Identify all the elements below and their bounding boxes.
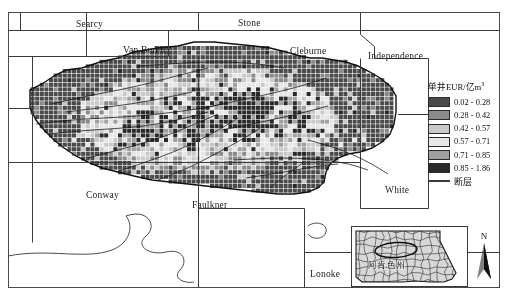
legend-row-0: 0.02 - 0.28 bbox=[428, 96, 502, 109]
fault-label: 断层 bbox=[454, 175, 472, 188]
legend-label-1: 0.28 - 0.42 bbox=[454, 111, 490, 120]
legend-swatch-1 bbox=[428, 110, 450, 120]
legend-class-list: 0.02 - 0.280.28 - 0.420.42 - 0.570.57 - … bbox=[428, 96, 502, 175]
county-label-cleburne: Cleburne bbox=[290, 46, 326, 56]
county-label-van-buren: Van Buren bbox=[123, 45, 165, 55]
map-legend: 单井EUR/亿m3 0.02 - 0.280.28 - 0.420.42 - 0… bbox=[428, 80, 502, 188]
map-figure: SearcyStoneVan BurenCleburneIndependence… bbox=[0, 0, 508, 297]
inset-county-mesh bbox=[352, 227, 467, 286]
north-arrow-label: N bbox=[471, 231, 497, 241]
legend-swatch-4 bbox=[428, 150, 450, 160]
legend-swatch-0 bbox=[428, 97, 450, 107]
county-label-lonoke: Lonoke bbox=[310, 269, 340, 279]
legend-label-3: 0.57 - 0.71 bbox=[454, 137, 490, 146]
county-label-stone: Stone bbox=[238, 18, 261, 28]
legend-leader-line bbox=[398, 114, 428, 115]
legend-label-0: 0.02 - 0.28 bbox=[454, 98, 490, 107]
legend-row-1: 0.28 - 0.42 bbox=[428, 109, 502, 122]
fault-line-symbol bbox=[428, 176, 450, 186]
north-arrow: N bbox=[471, 231, 497, 283]
legend-row-fault: 断层 bbox=[428, 175, 502, 188]
county-label-white: White bbox=[385, 185, 409, 195]
county-label-faulkner: Faulkner bbox=[192, 200, 227, 210]
north-arrow-glyph bbox=[471, 241, 497, 281]
legend-title-superscript: 3 bbox=[481, 81, 484, 87]
legend-row-4: 0.71 - 0.85 bbox=[428, 149, 502, 162]
legend-row-3: 0.57 - 0.71 bbox=[428, 136, 502, 149]
legend-row-5: 0.85 - 1.86 bbox=[428, 162, 502, 175]
legend-title: 单井EUR/亿m3 bbox=[428, 80, 502, 92]
county-label-searcy: Searcy bbox=[76, 19, 103, 29]
legend-title-text: 单井EUR/亿m bbox=[428, 82, 481, 92]
legend-label-4: 0.71 - 0.85 bbox=[454, 151, 490, 160]
legend-label-5: 0.85 - 1.86 bbox=[454, 164, 490, 173]
county-label-independence: Independence bbox=[368, 51, 423, 61]
county-label-conway: Conway bbox=[86, 190, 119, 200]
arkansas-inset-map: 阿肯色州 bbox=[351, 226, 468, 287]
legend-swatch-3 bbox=[428, 137, 450, 147]
legend-swatch-5 bbox=[428, 163, 450, 173]
legend-swatch-2 bbox=[428, 124, 450, 134]
legend-row-2: 0.42 - 0.57 bbox=[428, 122, 502, 135]
legend-label-2: 0.42 - 0.57 bbox=[454, 124, 490, 133]
inset-state-label: 阿肯色州 bbox=[368, 258, 406, 270]
